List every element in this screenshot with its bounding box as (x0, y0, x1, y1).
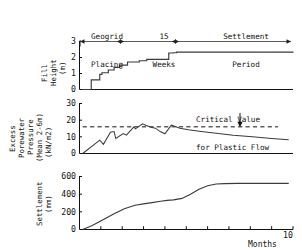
epwp-axis-title-line5: (kN/m2) (45, 127, 53, 158)
period-header-geogrid-placing-line2: Placing (76, 60, 138, 69)
settlement-axis-title-line2: (mm) (45, 195, 53, 213)
period-header-fifteen-weeks: 15 Weeks (138, 13, 190, 79)
period-header-geogrid-placing-line1: Geogrid (76, 32, 138, 41)
panel-settlement (80, 176, 294, 230)
period-header-settlement-period-line1: Settlement (196, 32, 296, 41)
settlement-ytick-0: 0 (50, 225, 76, 233)
epwp-ytick-10: 10 (56, 133, 76, 141)
fill-height-axis-title-line3: (m) (59, 62, 67, 75)
period-header-settlement-period-line2: Period (196, 60, 296, 69)
settlement-curve (83, 183, 289, 229)
settlement-ytick-600: 600 (50, 172, 76, 180)
settlement-ytick-200: 200 (50, 208, 76, 216)
period-header-fifteen-weeks-line2: Weeks (138, 60, 190, 69)
fill-height-ytick-0: 0 (62, 85, 76, 93)
settlement-ytick-400: 400 (50, 190, 76, 198)
period-header-fifteen-weeks-line1: 15 (138, 32, 190, 41)
critical-value-annotation: Critical Value for Plastic Flow (196, 96, 269, 162)
critical-value-annotation-line2: for Plastic Flow (196, 143, 269, 152)
fill-height-ytick-2: 2 (62, 53, 76, 61)
critical-value-annotation-line1: Critical Value (196, 115, 269, 124)
epwp-ytick-0: 0 (56, 149, 76, 157)
epwp-ytick-20: 20 (56, 116, 76, 124)
x-axis-title: Months (248, 241, 277, 250)
x-axis-max-label: 10 (283, 231, 293, 240)
fill-height-ytick-3: 3 (62, 37, 76, 45)
period-header-geogrid-placing: Geogrid Placing (76, 13, 138, 79)
epwp-ytick-30: 30 (56, 99, 76, 107)
period-header-settlement-period: Settlement Period (196, 13, 296, 79)
